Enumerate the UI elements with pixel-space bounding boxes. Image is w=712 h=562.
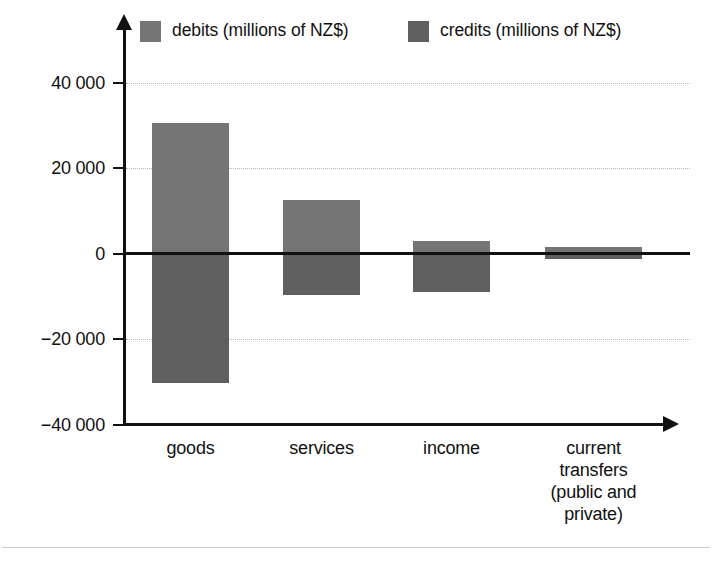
- gridline-40000: [126, 83, 690, 84]
- y-axis-label-2: 0: [0, 245, 105, 263]
- category-label-line: current: [519, 437, 669, 459]
- y-tick-mark-2: [113, 253, 126, 255]
- bar-debits-services: [283, 200, 360, 253]
- y-tick-mark-0: [113, 82, 126, 84]
- plot-area: 40 00020 0000−20 000−40 000 goodsservice…: [0, 0, 712, 562]
- zero-baseline: [123, 252, 690, 255]
- chart-figure: debits (millions of NZ$) credits (millio…: [0, 0, 712, 562]
- category-label-income: income: [387, 437, 517, 459]
- category-label-line: income: [387, 437, 517, 459]
- category-label-goods: goods: [126, 437, 256, 459]
- category-label-line: services: [257, 437, 387, 459]
- bar-credits-income: [413, 254, 490, 293]
- y-axis-label-4: −40 000: [0, 416, 105, 434]
- y-axis-label-3: −20 000: [0, 330, 105, 348]
- category-label-line: goods: [126, 437, 256, 459]
- x-axis-line: [123, 423, 668, 426]
- bar-debits-goods: [152, 123, 229, 254]
- y-axis-label-0: 40 000: [0, 74, 105, 92]
- y-axis-line: [123, 26, 126, 426]
- category-label-line: transfers: [519, 459, 669, 481]
- y-axis-arrow-icon: [116, 14, 132, 30]
- bottom-divider: [2, 547, 710, 548]
- y-axis-label-1: 20 000: [0, 159, 105, 177]
- y-tick-mark-4: [113, 424, 126, 426]
- category-label-current: currenttransfers(public andprivate): [519, 437, 669, 525]
- category-label-services: services: [257, 437, 387, 459]
- y-tick-mark-3: [113, 338, 126, 340]
- category-label-line: (public and: [519, 481, 669, 503]
- y-tick-mark-1: [113, 167, 126, 169]
- category-label-line: private): [519, 503, 669, 525]
- x-axis-arrow-icon: [663, 416, 679, 432]
- bar-credits-services: [283, 254, 360, 296]
- bar-credits-goods: [152, 254, 229, 384]
